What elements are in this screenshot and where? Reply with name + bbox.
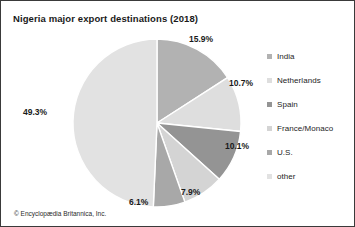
legend-item-other[interactable]: other <box>267 164 355 188</box>
pie-plot-area: 15.9% 10.7% 10.1% 7.9% 6.1% 49.3% <box>1 1 263 211</box>
pie-svg <box>1 1 263 211</box>
legend-item-label: U.S. <box>277 148 293 157</box>
copyright-credit: © Encyclopædia Britannica, Inc. <box>14 210 106 217</box>
legend-swatch-icon <box>267 150 272 155</box>
legend-item-label: Netherlands <box>277 76 321 85</box>
pie-slice-other <box>73 39 157 207</box>
slice-label-netherlands: 10.7% <box>229 78 253 88</box>
legend-item-label: France/Monaco <box>277 124 333 133</box>
legend-item-india[interactable]: India <box>267 44 355 68</box>
legend-swatch-icon <box>267 126 272 131</box>
legend-item-label: India <box>277 52 295 61</box>
pie-chart-figure: Nigeria major export destinations (2018)… <box>0 0 355 227</box>
slice-label-other: 49.3% <box>23 107 47 117</box>
legend-item-u-s[interactable]: U.S. <box>267 140 355 164</box>
legend-item-label: other <box>277 172 295 181</box>
legend-item-spain[interactable]: Spain <box>267 92 355 116</box>
slice-label-us: 6.1% <box>129 197 148 207</box>
legend-item-netherlands[interactable]: Netherlands <box>267 68 355 92</box>
pie-slices <box>73 39 241 207</box>
legend-swatch-icon <box>267 102 272 107</box>
legend-swatch-icon <box>267 174 272 179</box>
legend-item-label: Spain <box>277 100 298 109</box>
legend: IndiaNetherlandsSpainFrance/MonacoU.S.ot… <box>267 44 355 188</box>
legend-swatch-icon <box>267 78 272 83</box>
slice-label-spain: 10.1% <box>225 141 249 151</box>
slice-label-france-monaco: 7.9% <box>181 187 200 197</box>
slice-label-india: 15.9% <box>189 34 213 44</box>
legend-swatch-icon <box>267 54 272 59</box>
legend-item-france-monaco[interactable]: France/Monaco <box>267 116 355 140</box>
